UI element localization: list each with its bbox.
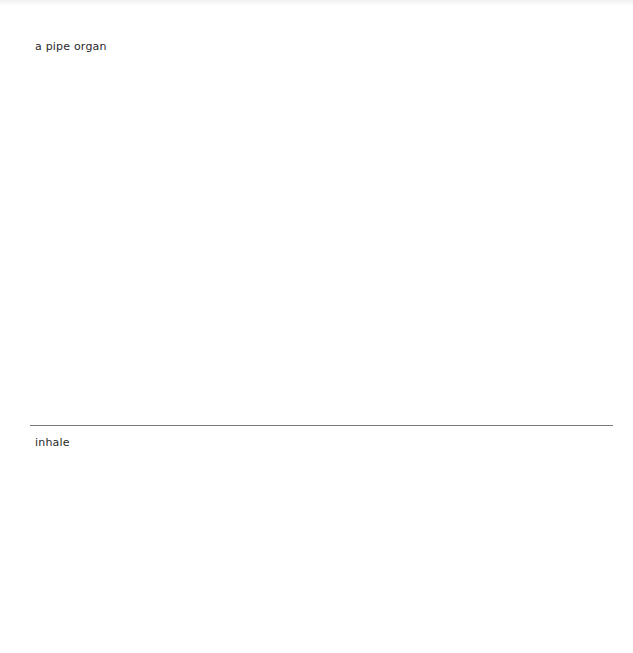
- caption-panel-2: inhale: [0, 426, 633, 653]
- caption-panel-1: a pipe organ: [0, 0, 633, 425]
- caption-text: inhale: [35, 436, 70, 449]
- caption-text: a pipe organ: [35, 40, 107, 53]
